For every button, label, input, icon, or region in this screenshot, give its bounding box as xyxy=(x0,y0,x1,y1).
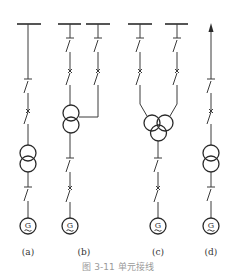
switch-blade xyxy=(24,81,28,93)
subfigure-d: G (d) xyxy=(203,23,219,257)
generator-label: G xyxy=(67,221,73,230)
single-line-diagram: G (a) G (b) xyxy=(0,0,236,272)
transformer-winding-icon xyxy=(63,117,79,133)
transformer-winding-icon xyxy=(203,156,219,172)
arrow-up-icon xyxy=(209,23,214,32)
transformer-winding-icon xyxy=(20,156,36,172)
subfigure-label: (b) xyxy=(78,247,91,257)
subfigure-label: (c) xyxy=(152,247,164,257)
subfigure-label: (a) xyxy=(22,247,34,257)
subfigure-label: (d) xyxy=(205,247,218,257)
subfigure-a: G (a) xyxy=(17,24,41,257)
figure-caption: 图 3-11 单元接线 xyxy=(82,261,153,272)
generator-label: G xyxy=(155,221,161,230)
generator-label: G xyxy=(25,221,31,230)
subfigure-b: G (b) xyxy=(58,24,110,257)
subfigure-c: G (c) xyxy=(128,24,188,257)
generator-label: G xyxy=(208,221,214,230)
